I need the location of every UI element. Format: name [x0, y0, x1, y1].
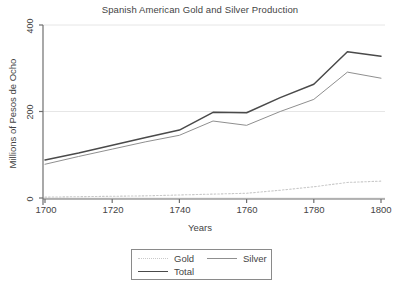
legend-label-silver: Silver [243, 253, 267, 264]
legend-swatch-total-icon [138, 268, 168, 275]
legend-item-silver: Silver [207, 253, 267, 264]
legend-label-total: Total [174, 266, 194, 277]
plot-area [0, 0, 400, 287]
legend-item-total: Total [138, 266, 194, 277]
series-line-total [45, 52, 381, 160]
legend-swatch-gold-icon [138, 255, 168, 262]
legend-item-gold: Gold [138, 253, 194, 264]
series-line-silver [45, 72, 381, 164]
chart-figure: Spanish American Gold and Silver Product… [0, 0, 400, 287]
series-lines [45, 52, 381, 197]
gridlines [43, 25, 385, 198]
chart-legend: Gold Silver Total [131, 249, 272, 280]
axis-spines [43, 25, 385, 205]
series-line-gold [45, 181, 381, 197]
legend-label-gold: Gold [174, 253, 194, 264]
legend-swatch-silver-icon [207, 255, 237, 262]
